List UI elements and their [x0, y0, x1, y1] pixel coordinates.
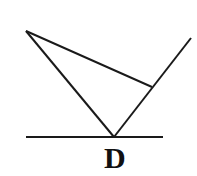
- ray-D-to-upper-right: [114, 38, 191, 137]
- vertex-label-d: D: [104, 143, 126, 173]
- left-side-apex-to-D: [26, 31, 114, 137]
- geometry-figure: D: [0, 0, 197, 176]
- upper-side-apex-to-intersection: [26, 31, 152, 87]
- geometry-canvas: [0, 0, 197, 176]
